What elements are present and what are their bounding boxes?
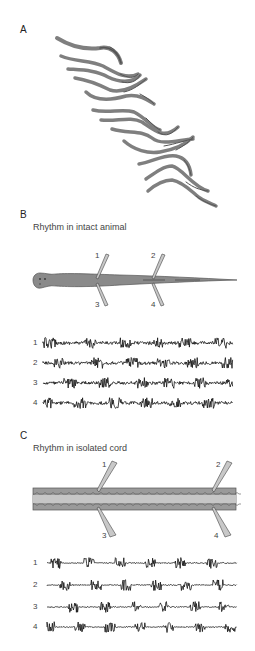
isolated-recording-traces	[0, 0, 255, 651]
recording-trace	[47, 558, 237, 569]
recording-trace	[47, 602, 237, 613]
recording-trace	[47, 622, 237, 633]
recording-trace	[47, 580, 237, 591]
